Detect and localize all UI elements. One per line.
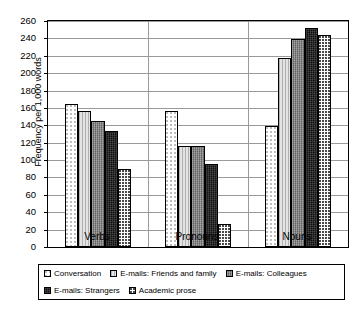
x-axis-tick-label: Pronouns bbox=[152, 231, 242, 242]
bar bbox=[91, 121, 104, 247]
category-separator bbox=[148, 21, 149, 247]
y-axis-tick-label: 0 bbox=[0, 242, 36, 251]
y-axis-tick-mark bbox=[44, 143, 48, 144]
legend-item-friends-and-family: E-mails: Friends and family bbox=[110, 270, 216, 278]
y-axis-tick-mark bbox=[44, 38, 48, 39]
bar bbox=[265, 126, 278, 247]
bar bbox=[165, 111, 178, 247]
legend-item-academic-prose: Academic prose bbox=[129, 287, 196, 295]
legend-label-strangers: E-mails: Strangers bbox=[54, 287, 120, 295]
y-axis-tick-mark bbox=[44, 73, 48, 74]
bar bbox=[305, 28, 318, 247]
y-axis-tick-label: 80 bbox=[0, 172, 36, 181]
y-axis-tick-label: 220 bbox=[0, 51, 36, 60]
legend-swatch-icon-colleagues bbox=[226, 270, 233, 277]
legend-label-colleagues: E-mails: Colleagues bbox=[236, 270, 307, 278]
y-axis-tick-mark bbox=[44, 108, 48, 109]
legend-swatch-icon-friends-and-family bbox=[110, 270, 117, 277]
y-axis-tick-label: 140 bbox=[0, 120, 36, 129]
bar bbox=[291, 39, 304, 247]
plot-area: 020406080100120140160180200220240260 bbox=[47, 20, 349, 248]
category-separator bbox=[248, 21, 249, 247]
y-axis-tick-label: 120 bbox=[0, 138, 36, 147]
legend-label-academic-prose: Academic prose bbox=[139, 287, 196, 295]
bar bbox=[105, 131, 118, 247]
gridline bbox=[48, 21, 348, 22]
y-axis-tick-mark bbox=[44, 21, 48, 22]
legend-row-2: E-mails: Strangers Academic prose bbox=[39, 282, 344, 299]
y-axis-tick-mark bbox=[44, 212, 48, 213]
y-axis-tick-label: 180 bbox=[0, 86, 36, 95]
y-axis-tick-mark bbox=[44, 125, 48, 126]
legend-item-strangers: E-mails: Strangers bbox=[44, 287, 120, 295]
y-axis-tick-mark bbox=[44, 230, 48, 231]
y-axis-tick-mark bbox=[44, 177, 48, 178]
bar bbox=[78, 111, 91, 247]
y-axis-tick-label: 100 bbox=[0, 155, 36, 164]
y-axis-tick-mark bbox=[44, 91, 48, 92]
y-axis-tick-mark bbox=[44, 56, 48, 57]
y-axis-tick-label: 200 bbox=[0, 68, 36, 77]
legend-label-friends-and-family: E-mails: Friends and family bbox=[120, 270, 216, 278]
legend-item-colleagues: E-mails: Colleagues bbox=[226, 270, 307, 278]
y-axis-tick-mark bbox=[44, 195, 48, 196]
legend-label-conversation: Conversation bbox=[54, 270, 101, 278]
bar bbox=[278, 58, 291, 247]
legend-row-1: Conversation E-mails: Friends and family… bbox=[39, 265, 344, 282]
bar bbox=[318, 35, 331, 247]
y-axis-tick-label: 160 bbox=[0, 103, 36, 112]
chart-legend: Conversation E-mails: Friends and family… bbox=[38, 264, 345, 300]
y-axis-tick-label: 240 bbox=[0, 33, 36, 42]
legend-swatch-icon-conversation bbox=[44, 270, 51, 277]
legend-swatch-icon-strangers bbox=[44, 287, 51, 294]
legend-item-conversation: Conversation bbox=[44, 270, 101, 278]
legend-swatch-icon-academic-prose bbox=[129, 287, 136, 294]
y-axis-tick-mark bbox=[44, 247, 48, 248]
x-axis-tick-label: Nouns bbox=[252, 231, 342, 242]
y-axis-tick-label: 260 bbox=[0, 16, 36, 25]
y-axis-tick-label: 60 bbox=[0, 190, 36, 199]
bar bbox=[65, 104, 78, 247]
bar-chart-figure: Frequency per 1,000 words 02040608010012… bbox=[0, 0, 358, 311]
y-axis-tick-label: 40 bbox=[0, 207, 36, 216]
y-axis-tick-label: 20 bbox=[0, 225, 36, 234]
y-axis-tick-mark bbox=[44, 160, 48, 161]
x-axis-tick-label: Verbs bbox=[52, 231, 142, 242]
